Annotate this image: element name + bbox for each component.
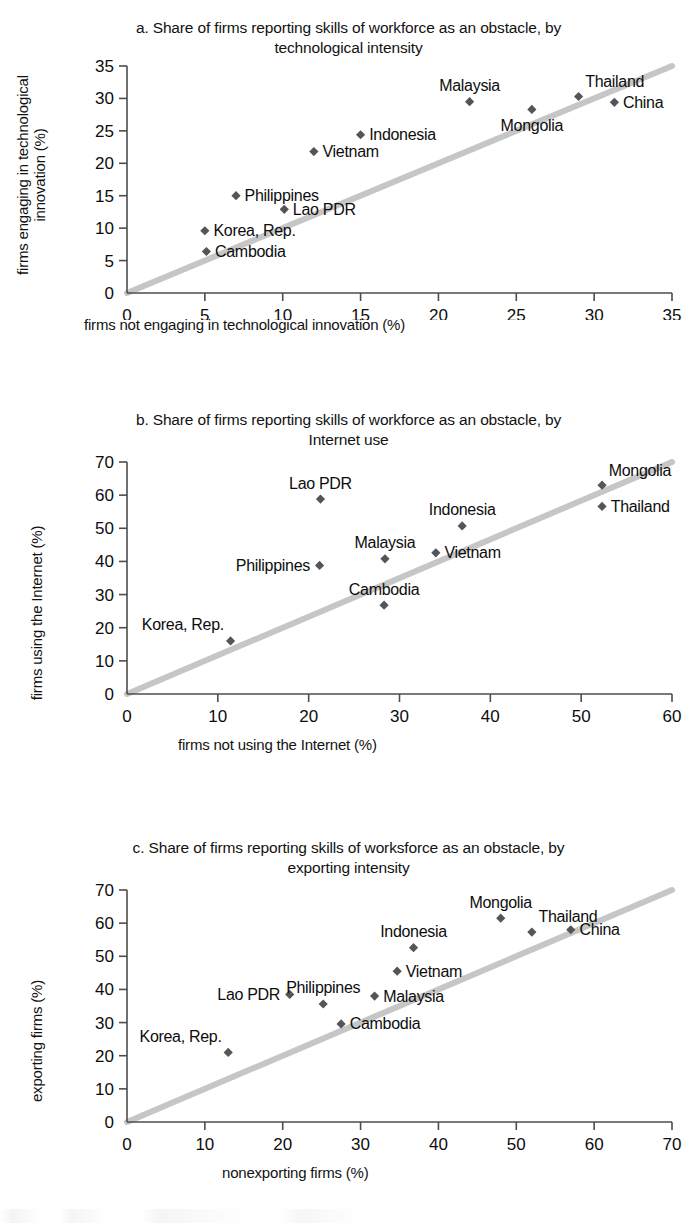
y-tick-label: 30 [95,1014,114,1033]
data-point-label: Cambodia [350,1015,421,1032]
data-point-marker [231,191,240,200]
data-point-label: Indonesia [369,126,436,143]
x-tick-label: 40 [429,1135,448,1154]
data-point-label: Korea, Rep. [213,222,295,239]
data-point-marker [316,495,325,504]
data-point-marker [356,130,365,139]
data-point: Mongolia [469,894,532,923]
data-point-marker [380,554,389,563]
y-tick-label: 20 [95,1047,114,1066]
data-point-marker [319,999,328,1008]
x-tick-label: 50 [507,1135,526,1154]
data-point-marker [409,943,418,952]
data-point: Indonesia [429,501,496,530]
data-point-label: Philippines [236,557,310,574]
data-point-marker [458,521,467,530]
data-point-marker [465,97,474,106]
reference-line [127,66,672,293]
y-tick-label: 50 [95,947,114,966]
y-tick-label: 60 [95,486,114,505]
data-point-marker [200,226,209,235]
x-tick-label: 10 [208,707,227,726]
data-point-marker [202,247,211,256]
y-tick-label: 70 [95,881,114,900]
data-point: Cambodia [337,1015,421,1032]
x-tick-label: 20 [273,1135,292,1154]
data-point: Malaysia [370,988,444,1005]
y-tick-label: 20 [95,619,114,638]
data-point: Korea, Rep. [142,616,235,645]
x-tick-label: 30 [390,707,409,726]
data-point-marker [597,502,606,511]
data-point-label: Philippines [286,979,360,996]
reference-line [127,462,672,694]
y-tick-label: 0 [105,284,114,303]
data-point-label: Indonesia [429,501,496,518]
x-tick-label: 20 [299,707,318,726]
y-tick-label: 40 [95,980,114,999]
data-point-label: Mongolia [609,462,672,479]
data-point-label: Vietnam [406,963,462,980]
page-footer-artifact [0,1209,697,1223]
panel-b-svg: 0102030405060700102030405060Korea, Rep.P… [0,450,697,740]
data-point-label: Indonesia [380,923,447,940]
data-point-marker [226,636,235,645]
x-tick-label: 50 [572,707,591,726]
data-point-marker [379,601,388,610]
y-tick-label: 35 [95,58,114,76]
data-point: Thailand [597,498,669,515]
data-point-label: Malaysia [355,534,416,551]
data-point-label: Lao PDR [289,475,352,492]
data-point-label: Korea, Rep. [142,616,224,633]
data-point-label: Malaysia [383,988,444,1005]
data-point-label: Lao PDR [217,986,280,1003]
data-point: Malaysia [439,77,500,106]
data-point-label: Mongolia [501,117,564,134]
data-point-marker [527,927,536,936]
data-point: China [610,94,664,111]
data-point: Mongolia [597,462,671,490]
data-point: Philippines [236,557,324,574]
x-tick-label: 40 [481,707,500,726]
data-point-label: Mongolia [469,894,532,911]
data-point-marker [309,147,318,156]
data-point-marker [496,914,505,923]
x-tick-label: 70 [663,1135,682,1154]
data-point-label: China [579,921,620,938]
y-tick-label: 10 [95,1080,114,1099]
x-tick-label: 60 [663,707,682,726]
data-point-marker [610,98,619,107]
x-tick-label: 25 [507,306,526,320]
data-point-marker [527,105,536,114]
x-tick-label: 35 [663,306,682,320]
panel-a-title: a. Share of firms reporting skills of wo… [0,18,697,58]
y-tick-label: 30 [95,586,114,605]
data-point: Philippines [286,979,360,1008]
y-tick-label: 10 [95,652,114,671]
panel-a: a. Share of firms reporting skills of wo… [0,18,697,320]
panel-a-plot: firms engaging in technological innovati… [0,58,697,320]
data-point: Cambodia [349,581,420,610]
x-tick-label: 0 [122,1135,131,1154]
data-point: Korea, Rep. [140,1028,233,1057]
panel-b: b. Share of firms reporting skills of wo… [0,410,697,740]
y-tick-label: 10 [95,219,114,238]
panel-c: c. Share of firms reporting skills of wo… [0,838,697,1168]
data-point: Lao PDR [289,475,352,504]
panel-c-title: c. Share of firms reporting skills of wo… [0,838,697,878]
data-point-marker [280,205,289,214]
data-point-label: Cambodia [215,243,286,260]
data-point-marker [431,548,440,557]
x-tick-label: 10 [195,1135,214,1154]
panel-a-ylabel: firms engaging in technological innovati… [14,60,48,290]
panel-b-plot: firms using the Internet (%) 01020304050… [0,450,697,740]
data-point-label: Lao PDR [293,201,356,218]
data-point: Indonesia [380,923,447,952]
data-point-label: China [623,94,664,111]
data-point-label: Thailand [585,73,644,90]
y-tick-label: 20 [95,154,114,173]
y-tick-label: 15 [95,187,114,206]
data-point-label: Vietnam [322,143,378,160]
data-point: Indonesia [356,126,436,143]
panel-c-svg: 010203040506070010203040506070Korea, Rep… [0,878,697,1168]
